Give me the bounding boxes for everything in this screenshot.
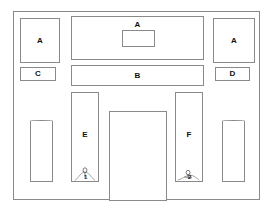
zone-left-tall[interactable]: E 1 bbox=[71, 92, 99, 182]
diagram-canvas: A A A C B D E bbox=[0, 0, 273, 217]
zone-center-upper[interactable]: A bbox=[71, 16, 204, 60]
zone-center-band-label: B bbox=[135, 72, 141, 80]
left-arch-opening[interactable] bbox=[30, 120, 53, 182]
zone-left-small[interactable]: C bbox=[20, 67, 56, 81]
zone-right-tall[interactable]: F 2 bbox=[175, 92, 203, 182]
zone-right-tall-label: F bbox=[176, 131, 202, 139]
center-upper-inset[interactable] bbox=[122, 30, 155, 47]
zone-left-upper[interactable]: A bbox=[20, 18, 60, 63]
zone-left-small-label: C bbox=[35, 70, 41, 78]
zone-center-upper-label: A bbox=[135, 21, 141, 29]
figure-one-number: 1 bbox=[84, 174, 87, 180]
central-doorway[interactable] bbox=[109, 111, 167, 201]
figure-two-number: 2 bbox=[188, 174, 191, 180]
zone-right-small-label: D bbox=[230, 70, 236, 78]
zone-right-upper[interactable]: A bbox=[213, 18, 255, 63]
zone-right-upper-label: A bbox=[231, 37, 237, 45]
right-arch-opening[interactable] bbox=[222, 120, 245, 182]
outer-frame: A A A C B D E bbox=[13, 11, 260, 200]
zone-right-small[interactable]: D bbox=[215, 67, 250, 81]
zone-left-upper-label: A bbox=[37, 37, 43, 45]
zone-center-band[interactable]: B bbox=[71, 65, 204, 86]
zone-left-tall-label: E bbox=[72, 131, 98, 139]
